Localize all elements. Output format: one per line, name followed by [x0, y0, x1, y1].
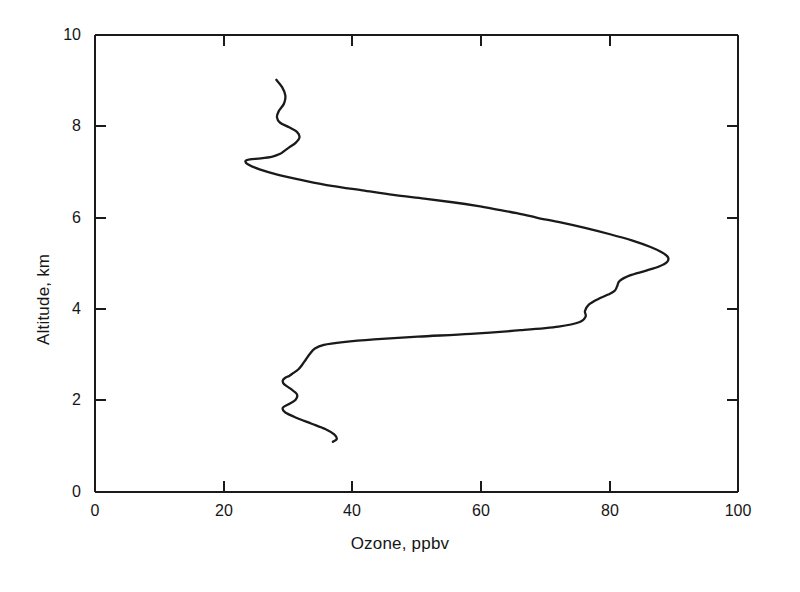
x-ticks — [224, 35, 610, 492]
y-tick-label-10: 10 — [31, 26, 81, 44]
x-tick-label-100: 100 — [708, 502, 768, 520]
ozone-profile-curve — [245, 80, 668, 442]
x-tick-label-60: 60 — [451, 502, 511, 520]
y-tick-label-4: 4 — [31, 300, 81, 318]
x-tick-label-0: 0 — [65, 502, 125, 520]
y-tick-label-8: 8 — [31, 117, 81, 135]
axes-frame — [95, 35, 738, 492]
y-tick-label-2: 2 — [31, 391, 81, 409]
x-axis-title: Ozone, ppbv — [0, 534, 800, 554]
x-tick-label-40: 40 — [322, 502, 382, 520]
ozone-profile-figure: Ozone, ppbv Altitude, km 0 20 40 60 80 1… — [0, 0, 800, 592]
y-tick-label-6: 6 — [31, 209, 81, 227]
y-tick-label-0: 0 — [31, 483, 81, 501]
x-tick-label-80: 80 — [580, 502, 640, 520]
x-tick-label-20: 20 — [194, 502, 254, 520]
y-ticks — [95, 126, 738, 400]
